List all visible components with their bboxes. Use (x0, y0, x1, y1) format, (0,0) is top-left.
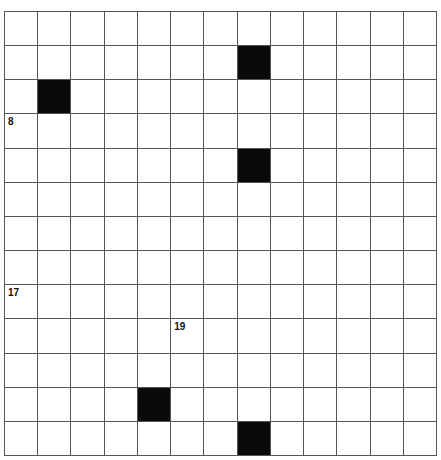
grid-cell[interactable] (371, 354, 404, 388)
grid-cell[interactable] (238, 114, 271, 148)
grid-cell[interactable] (38, 422, 71, 456)
grid-cell[interactable] (271, 422, 304, 456)
grid-cell[interactable] (38, 251, 71, 285)
grid-cell[interactable] (238, 217, 271, 251)
grid-cell[interactable] (404, 388, 437, 422)
grid-cell[interactable] (5, 354, 38, 388)
grid-cell[interactable] (38, 354, 71, 388)
grid-cell[interactable] (238, 12, 271, 46)
grid-cell[interactable] (204, 422, 237, 456)
grid-cell[interactable] (138, 114, 171, 148)
grid-cell[interactable] (38, 217, 71, 251)
grid-cell[interactable] (105, 149, 138, 183)
grid-cell[interactable] (171, 80, 204, 114)
grid-cell[interactable] (238, 80, 271, 114)
grid-cell[interactable] (204, 354, 237, 388)
grid-cell[interactable] (304, 251, 337, 285)
grid-cell[interactable] (304, 285, 337, 319)
grid-cell[interactable] (38, 388, 71, 422)
grid-cell[interactable] (304, 80, 337, 114)
grid-cell[interactable] (304, 46, 337, 80)
grid-cell[interactable] (71, 183, 104, 217)
grid-cell[interactable] (337, 12, 370, 46)
grid-cell[interactable] (371, 183, 404, 217)
grid-cell[interactable] (404, 80, 437, 114)
grid-cell[interactable] (71, 319, 104, 353)
grid-cell[interactable] (71, 46, 104, 80)
grid-cell[interactable]: 17 (5, 285, 38, 319)
grid-cell[interactable] (71, 422, 104, 456)
grid-cell[interactable] (5, 80, 38, 114)
grid-cell[interactable] (171, 422, 204, 456)
grid-cell[interactable] (5, 183, 38, 217)
grid-cell[interactable] (304, 183, 337, 217)
grid-cell[interactable] (71, 114, 104, 148)
grid-cell[interactable] (38, 114, 71, 148)
grid-cell[interactable] (304, 388, 337, 422)
grid-cell[interactable] (337, 285, 370, 319)
grid-cell[interactable] (271, 46, 304, 80)
grid-cell[interactable] (337, 354, 370, 388)
grid-cell[interactable] (171, 114, 204, 148)
grid-cell[interactable] (204, 12, 237, 46)
grid-cell[interactable] (304, 149, 337, 183)
grid-cell[interactable] (171, 12, 204, 46)
grid-cell[interactable] (138, 422, 171, 456)
grid-cell[interactable] (404, 422, 437, 456)
grid-cell[interactable] (71, 80, 104, 114)
grid-cell[interactable] (238, 319, 271, 353)
grid-cell[interactable] (204, 80, 237, 114)
grid-cell[interactable] (204, 319, 237, 353)
grid-cell[interactable] (71, 251, 104, 285)
grid-cell[interactable] (404, 285, 437, 319)
grid-cell[interactable] (371, 149, 404, 183)
grid-cell[interactable] (304, 422, 337, 456)
grid-cell[interactable]: 19 (171, 319, 204, 353)
grid-cell[interactable] (105, 354, 138, 388)
grid-cell[interactable] (304, 217, 337, 251)
grid-cell[interactable] (171, 217, 204, 251)
grid-cell[interactable] (337, 388, 370, 422)
grid-cell[interactable] (404, 217, 437, 251)
grid-cell[interactable] (105, 319, 138, 353)
grid-cell[interactable] (404, 149, 437, 183)
grid-cell[interactable] (404, 12, 437, 46)
grid-cell[interactable] (271, 285, 304, 319)
grid-cell[interactable] (204, 285, 237, 319)
grid-cell[interactable] (271, 319, 304, 353)
grid-cell[interactable] (337, 217, 370, 251)
grid-cell[interactable] (404, 183, 437, 217)
grid-cell[interactable] (271, 388, 304, 422)
grid-cell[interactable]: 8 (5, 114, 38, 148)
grid-cell[interactable] (71, 217, 104, 251)
grid-cell[interactable] (238, 183, 271, 217)
grid-cell[interactable] (304, 354, 337, 388)
grid-cell[interactable] (271, 114, 304, 148)
grid-cell[interactable] (404, 114, 437, 148)
grid-cell[interactable] (38, 149, 71, 183)
grid-cell[interactable] (105, 251, 138, 285)
grid-cell[interactable] (304, 12, 337, 46)
grid-cell[interactable] (171, 354, 204, 388)
grid-cell[interactable] (5, 217, 38, 251)
grid-cell[interactable] (404, 46, 437, 80)
grid-cell[interactable] (238, 354, 271, 388)
grid-cell[interactable] (171, 46, 204, 80)
grid-cell[interactable] (337, 80, 370, 114)
grid-cell[interactable] (5, 319, 38, 353)
grid-cell[interactable] (271, 183, 304, 217)
grid-cell[interactable] (238, 251, 271, 285)
grid-cell[interactable] (371, 46, 404, 80)
grid-cell[interactable] (371, 422, 404, 456)
grid-cell[interactable] (204, 183, 237, 217)
grid-cell[interactable] (71, 149, 104, 183)
grid-cell[interactable] (371, 217, 404, 251)
grid-cell[interactable] (138, 285, 171, 319)
grid-cell[interactable] (337, 149, 370, 183)
grid-cell[interactable] (105, 388, 138, 422)
grid-cell[interactable] (371, 319, 404, 353)
grid-cell[interactable] (138, 251, 171, 285)
grid-cell[interactable] (171, 285, 204, 319)
grid-cell[interactable] (371, 12, 404, 46)
grid-cell[interactable] (337, 251, 370, 285)
